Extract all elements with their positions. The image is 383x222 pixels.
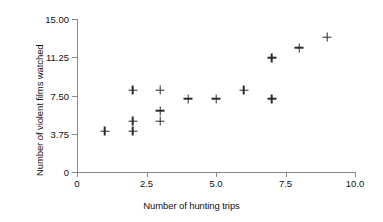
y-tick-label: 7.50: [51, 90, 70, 101]
data-point: [128, 127, 137, 136]
y-tick-label: 0: [64, 167, 69, 178]
y-tick-label: 11.25: [46, 52, 69, 63]
x-tick-label: 10.0: [346, 178, 365, 189]
data-point: [156, 106, 165, 115]
data-point: [267, 94, 276, 103]
x-tick-mark: [286, 172, 287, 177]
data-point: [323, 33, 332, 42]
x-tick-label: 0: [74, 178, 79, 189]
data-point: [267, 53, 276, 62]
y-tick-mark: [72, 96, 77, 97]
x-tick-label: 2.5: [140, 178, 153, 189]
x-tick-mark: [216, 172, 217, 177]
data-point: [128, 86, 137, 95]
data-point: [212, 94, 221, 103]
y-tick-label: 3.75: [51, 128, 70, 139]
data-point: [239, 86, 248, 95]
scatter-plot: Number of violent films watched Number o…: [0, 0, 383, 222]
data-point: [128, 117, 137, 126]
data-point: [295, 43, 304, 52]
x-tick-mark: [147, 172, 148, 177]
x-axis-title: Number of hunting trips: [0, 200, 383, 211]
x-tick-mark: [77, 172, 78, 177]
y-tick-label: 15.00: [45, 14, 69, 25]
data-point: [100, 127, 109, 136]
y-tick-mark: [72, 134, 77, 135]
data-point: [156, 86, 165, 95]
x-tick-mark: [355, 172, 356, 177]
data-point: [156, 117, 165, 126]
y-axis-line: [77, 19, 78, 172]
data-point: [184, 94, 193, 103]
x-tick-label: 7.5: [279, 178, 292, 189]
y-tick-mark: [72, 57, 77, 58]
y-axis-title: Number of violent films watched: [32, 16, 48, 176]
x-tick-label: 5.0: [209, 178, 222, 189]
y-tick-mark: [72, 19, 77, 20]
